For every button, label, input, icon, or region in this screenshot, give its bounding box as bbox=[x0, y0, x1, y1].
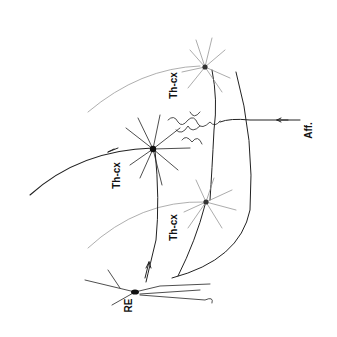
afferent-arbor bbox=[168, 112, 220, 144]
middle-neuron-dendrites bbox=[126, 115, 190, 185]
middle-neuron-soma bbox=[150, 146, 156, 152]
middle-neuron-axon bbox=[146, 150, 158, 282]
bottom-projection-arc bbox=[88, 202, 205, 248]
label-thcx-top: Th-cx bbox=[168, 72, 179, 99]
label-thcx-middle: Th-cx bbox=[111, 162, 122, 189]
bottom-neuron-axon bbox=[178, 205, 205, 276]
cortex-arrow bbox=[108, 148, 118, 152]
bottom-neuron-soma bbox=[203, 199, 208, 204]
top-neuron-soma bbox=[202, 64, 207, 69]
label-thcx-bottom: Th-cx bbox=[168, 214, 179, 241]
diagram-drawing bbox=[0, 0, 337, 337]
label-re: RE bbox=[123, 299, 134, 313]
re-neuron-soma bbox=[131, 289, 139, 294]
bottom-neuron-dendrites bbox=[184, 178, 236, 228]
label-aff: Aff. bbox=[303, 122, 314, 139]
re-neuron-dendrites bbox=[85, 270, 212, 305]
afferent-arrow bbox=[277, 118, 288, 122]
middle-projection-arc bbox=[30, 148, 153, 195]
neuron-circuit-diagram: Th-cx Th-cx Th-cx RE Aff. bbox=[0, 0, 337, 337]
top-projection-arc bbox=[88, 66, 200, 112]
